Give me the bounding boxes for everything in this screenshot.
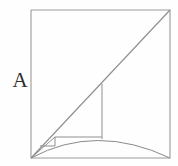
- geometry-figure: A: [0, 0, 178, 166]
- diagonal: [31, 10, 170, 158]
- arc-curve: [31, 141, 170, 159]
- large-rectangle: [55, 84, 102, 137]
- small-rectangle-base: [31, 137, 55, 158]
- region-label-a: A: [8, 68, 32, 92]
